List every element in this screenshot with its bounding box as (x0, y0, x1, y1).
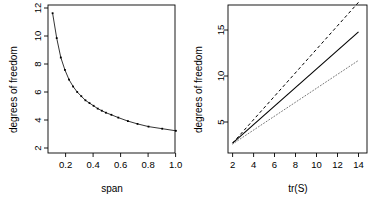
left-x-axis-title: span (101, 183, 123, 194)
left-data-point (85, 99, 87, 101)
left-data-point (52, 12, 54, 14)
left-data-point (93, 105, 95, 107)
left-x-tick-label: 1.0 (169, 159, 182, 170)
left-y-tick-label: 8 (32, 61, 43, 66)
left-data-point (148, 126, 150, 128)
right-series-middle (233, 32, 359, 143)
left-data-point (97, 108, 99, 110)
left-data-point (89, 102, 91, 104)
left-data-line (53, 13, 176, 131)
right-x-tick-label: 12 (332, 159, 343, 170)
left-y-tick-label: 4 (32, 117, 43, 122)
left-data-point (117, 117, 119, 119)
chart-panel-right: degrees of freedom 5 10 15 (188, 0, 376, 206)
left-data-point (105, 112, 107, 114)
left-x-tick-label: 0.6 (114, 159, 127, 170)
left-y-tick-label: 12 (32, 3, 43, 14)
chart-panel-left: degrees of freedom 2 4 6 8 10 12 (0, 0, 188, 206)
right-x-tick-label: 4 (251, 159, 256, 170)
left-data-point (111, 114, 113, 116)
left-plot-frame (48, 5, 175, 153)
left-x-tick-label: 0.8 (141, 159, 154, 170)
left-y-tick-label: 2 (32, 145, 43, 150)
right-x-tick-label: 8 (293, 159, 298, 170)
left-data-point (80, 95, 82, 97)
right-x-tick-label: 14 (353, 159, 364, 170)
right-x-axis-title: tr(S) (288, 183, 307, 194)
left-data-point (76, 91, 78, 93)
left-y-tick-label: 6 (32, 89, 43, 94)
figure-canvas: degrees of freedom 2 4 6 8 10 12 (0, 0, 376, 206)
right-x-tick-label: 2 (230, 159, 235, 170)
left-data-point (56, 37, 58, 39)
left-x-tick-label: 0.4 (86, 159, 99, 170)
right-plot-frame (228, 5, 367, 153)
right-y-axis-title: degrees of freedom (193, 46, 204, 133)
left-data-point (64, 69, 66, 71)
right-series-upper (233, 2, 359, 143)
left-data-point (161, 128, 163, 130)
left-data-point (175, 130, 177, 132)
right-x-tick-label: 6 (272, 159, 277, 170)
left-data-point (127, 120, 129, 122)
left-x-tick-label: 0.2 (59, 159, 72, 170)
right-x-tick-label: 10 (311, 159, 322, 170)
left-data-point (60, 57, 62, 59)
left-y-axis-title: degrees of freedom (8, 46, 19, 133)
left-data-point (72, 86, 74, 88)
left-data-point (68, 79, 70, 81)
left-y-tick-label: 10 (32, 31, 43, 42)
left-data-point (137, 123, 139, 125)
left-data-point (101, 110, 103, 112)
